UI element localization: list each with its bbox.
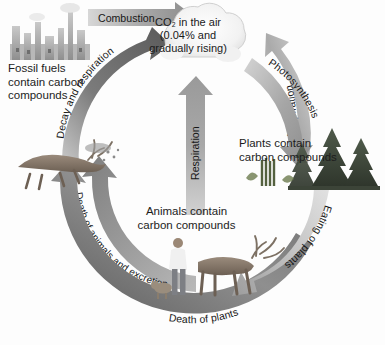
node-label-atmosphere: CO₂ in the air (0.04% and gradually risi… — [134, 16, 242, 55]
flow-respiration-center: Respiration — [178, 76, 213, 215]
flow-label-eating-of-plants: Eating of plants — [283, 204, 334, 271]
node-label-plants: Plants contain carbon compounds — [239, 137, 337, 164]
flow-label-respiration-center: Respiration — [189, 126, 201, 180]
factory-icon — [10, 3, 90, 60]
carbon-cycle-diagram: Decay and respiration Death of animals a… — [0, 0, 385, 345]
node-label-animals: Animals contain carbon compounds — [124, 205, 249, 232]
node-label-fossil-fuels: Fossil fuels contain carbon compounds — [8, 62, 83, 103]
